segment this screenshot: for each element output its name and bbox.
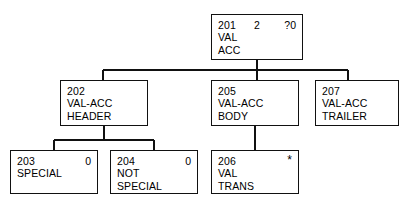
node-label-line: HEADER [67, 110, 141, 123]
node-header: 202 [67, 85, 141, 97]
structure-chart-diagram: 2012?0VALACC202VAL-ACCHEADER205VAL-ACCBO… [0, 0, 408, 203]
node-label-line: SPECIAL [17, 167, 91, 180]
node-header: 207 [322, 85, 392, 97]
node-header: 2030 [17, 155, 91, 167]
node-206[interactable]: 206*VALTRANS [211, 150, 299, 194]
node-header: 2040 [117, 155, 191, 167]
node-label-line: BODY [218, 110, 292, 123]
node-label-line: NOT [117, 167, 191, 180]
node-label-line: ACC [218, 44, 296, 57]
node-id: 202 [67, 85, 85, 97]
node-label-line: VAL-ACC [322, 97, 392, 110]
node-header: 206* [218, 155, 292, 167]
node-label-line: VAL [218, 31, 296, 44]
node-207[interactable]: 207VAL-ACCTRAILER [315, 80, 399, 126]
node-203[interactable]: 2030SPECIAL [10, 150, 98, 194]
node-label-line: VAL-ACC [218, 97, 292, 110]
node-201[interactable]: 2012?0VALACC [211, 14, 303, 60]
node-header: 205 [218, 85, 292, 97]
node-id: 201 [218, 19, 236, 31]
node-id: 206 [218, 155, 236, 167]
node-label-line: VAL [218, 167, 292, 180]
node-204[interactable]: 2040NOTSPECIAL [110, 150, 198, 194]
node-mid-value: 2 [254, 19, 260, 31]
node-right-value: ?0 [284, 19, 296, 31]
node-id: 205 [218, 85, 236, 97]
node-id: 204 [117, 155, 135, 167]
node-label-line: TRANS [218, 180, 292, 193]
node-iteration-marker: * [287, 155, 292, 166]
node-id: 203 [17, 155, 35, 167]
node-id: 207 [322, 85, 340, 97]
node-label-line: TRAILER [322, 110, 392, 123]
node-205[interactable]: 205VAL-ACCBODY [211, 80, 299, 126]
node-202[interactable]: 202VAL-ACCHEADER [60, 80, 148, 126]
node-label-line: VAL-ACC [67, 97, 141, 110]
node-right-value: 0 [185, 155, 191, 167]
node-right-value: 0 [85, 155, 91, 167]
node-label-line: SPECIAL [117, 180, 191, 193]
node-header: 2012?0 [218, 19, 296, 31]
